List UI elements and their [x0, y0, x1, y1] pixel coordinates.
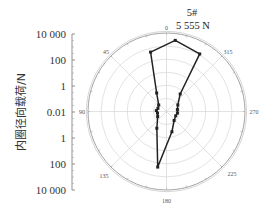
data-point-marker: [174, 114, 177, 117]
angle-label-315: 315: [224, 49, 233, 55]
angle-label-90: 90: [79, 109, 85, 115]
left-axis-tick: 0.01: [47, 106, 66, 118]
left-axis-tick: 100: [50, 54, 67, 66]
data-point-marker: [176, 108, 179, 111]
left-axis-tick: 10 000: [36, 184, 67, 196]
angle-label-270: 270: [250, 109, 259, 115]
left-axis: 10 000 100 1 0.01 1 100 10 000: [36, 28, 75, 196]
left-axis-tick: 100: [50, 158, 67, 170]
left-axis-tick: 1: [61, 80, 67, 92]
polar-grid: [86, 31, 246, 191]
data-point-marker: [155, 127, 158, 130]
data-point-marker: [155, 91, 158, 94]
left-axis-tick: 1: [61, 132, 67, 144]
data-point-marker: [176, 103, 179, 106]
data-point-marker: [179, 92, 182, 95]
chart-subtitle: 5 555 N: [176, 20, 210, 31]
data-point-marker: [156, 115, 159, 118]
data-point-marker: [174, 39, 177, 42]
data-point-marker: [149, 51, 152, 54]
load-series: [149, 39, 201, 169]
data-point-marker: [198, 52, 201, 55]
polar-chart: 10 000 100 1 0.01 1 100 10 000 内圈径向载荷/N …: [0, 0, 275, 218]
angle-label-45: 45: [103, 49, 109, 55]
data-point-marker: [156, 112, 159, 115]
left-axis-tick: 10 000: [36, 28, 67, 40]
data-point-marker: [170, 130, 173, 133]
chart-title: 5#: [187, 7, 198, 18]
data-point-marker: [176, 112, 179, 115]
data-point-marker: [157, 103, 160, 106]
angle-label-135: 135: [100, 173, 109, 179]
angle-label-180: 180: [162, 198, 171, 204]
y-axis-label: 内圈径向载荷/N: [14, 73, 28, 151]
data-point-marker: [156, 166, 159, 169]
data-point-marker: [173, 119, 176, 122]
angle-label-225: 225: [228, 171, 237, 177]
angle-label-0: 0: [165, 25, 168, 31]
